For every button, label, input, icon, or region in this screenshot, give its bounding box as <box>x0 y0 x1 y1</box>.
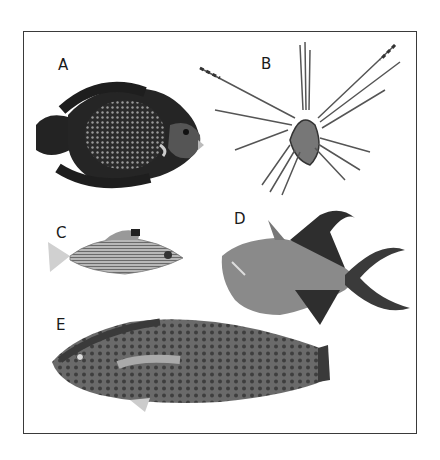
fish-e-parrotfish <box>52 319 330 412</box>
fish-c-squirrelfish <box>48 229 183 274</box>
fish-a-angelfish <box>36 87 204 183</box>
fish-b-lionfish <box>200 42 400 195</box>
fish-illustrations <box>0 0 440 460</box>
fish-d-triggerfish <box>222 211 410 325</box>
